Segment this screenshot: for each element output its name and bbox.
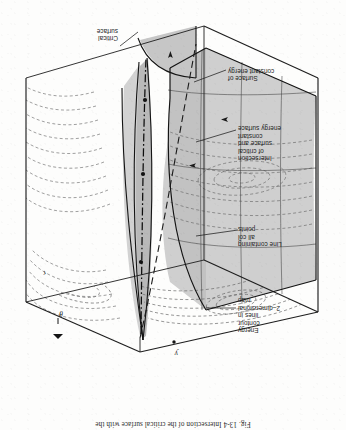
annotation-line: 2–dimensional <box>238 304 342 311</box>
figure-drawing <box>0 0 346 430</box>
annotation-line: map <box>238 297 342 304</box>
annotation-line: energy surface <box>238 125 342 132</box>
annotation-line: constant <box>238 132 342 139</box>
annotation-line: Critical <box>48 35 118 42</box>
annotation-line: contour <box>238 319 342 326</box>
annotation-line: of critical <box>238 147 342 154</box>
annotation-line-containing-all-col-points: Line containing all col points <box>238 226 342 248</box>
annotation-line: points <box>238 226 342 233</box>
annotation-line: Energy <box>238 327 342 334</box>
energy-contour-lines-right <box>24 87 120 320</box>
axis-label-y: y <box>175 349 178 358</box>
annotation-line: surface <box>48 27 118 34</box>
annotation-line: Intersection <box>238 155 342 162</box>
figure-caption: Fig. 13-4 Intersection of the critical s… <box>0 420 346 428</box>
annotation-critical-surface: Critical surface <box>48 27 118 42</box>
axis-label-theta: θ <box>59 309 63 318</box>
annotation-energy-contour-lines: Energy contour lines in 2–dimensional ma… <box>238 297 342 334</box>
annotation-surface-of-constant-energy: Surface of constant energy <box>228 67 342 82</box>
annotation-intersection-critical-surface: Intersection of critical surface and con… <box>238 125 342 162</box>
scanned-figure: Fig. 13-4 Intersection of the critical s… <box>0 0 346 430</box>
annotation-line: surface and <box>238 140 342 147</box>
annotation-line: constant energy <box>228 67 342 74</box>
annotation-line: all col <box>238 233 342 240</box>
critical-surface-shading <box>163 48 317 310</box>
annotation-line: lines in <box>238 312 342 319</box>
figure-page: Fig. 13-4 Intersection of the critical s… <box>0 0 346 430</box>
annotation-line: Line containing <box>238 241 342 248</box>
annotation-line: Surface of <box>228 75 342 82</box>
